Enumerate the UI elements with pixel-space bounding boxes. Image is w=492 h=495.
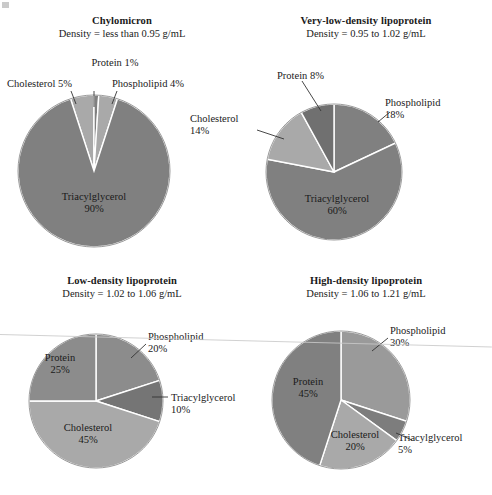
pie-slices-chylomicron <box>18 95 170 247</box>
panel-hdl: High-density lipoprotein Density = 1.06 … <box>244 274 488 300</box>
panel-density-ldl: Density = 1.02 to 1.06 g/mL <box>0 287 244 300</box>
panel-density-hdl: Density = 1.06 to 1.21 g/mL <box>244 287 488 300</box>
slice-label-chylomicron-triacylglycerol: Triacylglycerol 90% <box>44 191 144 214</box>
panel-title-chylomicron: Chylomicron <box>0 14 244 27</box>
pie-svg-hdl <box>244 330 488 495</box>
callout-chylomicron-protein: Protein 1% <box>55 57 175 69</box>
panel-title-ldl: Low-density lipoprotein <box>0 274 244 287</box>
pie-svg-chylomicron <box>0 80 244 260</box>
slice-label-vldl-triacylglycerol: Triacylglycerol 60% <box>287 193 387 216</box>
slice-label-hdl-cholesterol: Cholesterol 20% <box>310 429 400 452</box>
callout-vldl-protein: Protein 8% <box>277 70 324 82</box>
pie-chart-chylomicron <box>0 80 244 260</box>
panel-density-vldl: Density = 0.95 to 1.02 g/mL <box>244 27 488 40</box>
pie-svg-vldl <box>244 85 488 255</box>
slice-label-ldl-protein: Protein 25% <box>18 352 102 375</box>
panel-chylomicron: Chylomicron Density = less than 0.95 g/m… <box>0 14 244 40</box>
panel-ldl: Low-density lipoprotein Density = 1.02 t… <box>0 274 244 300</box>
pie-slices-vldl <box>266 104 402 240</box>
panel-title-hdl: High-density lipoprotein <box>244 274 488 287</box>
scan-speck-artifact <box>2 2 9 8</box>
slice-label-hdl-protein: Protein 45% <box>266 376 350 399</box>
slice-label-ldl-cholesterol: Cholesterol 45% <box>40 422 136 445</box>
pie-chart-vldl <box>244 85 488 255</box>
panel-density-chylomicron: Density = less than 0.95 g/mL <box>0 27 244 40</box>
pie-chart-hdl <box>244 330 488 495</box>
panel-vldl: Very-low-density lipoprotein Density = 0… <box>244 14 488 40</box>
panel-title-vldl: Very-low-density lipoprotein <box>244 14 488 27</box>
